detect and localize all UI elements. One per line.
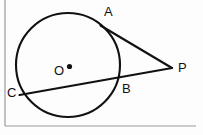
point-label-p: P xyxy=(178,60,187,75)
center-dot xyxy=(67,64,72,69)
point-label-a: A xyxy=(104,4,113,19)
center-label-o: O xyxy=(54,63,64,78)
point-label-b: B xyxy=(122,81,131,96)
geometry-canvas: A P B C O xyxy=(0,0,203,135)
geometry-figure: A P B C O xyxy=(0,0,203,135)
point-label-c: C xyxy=(7,85,16,100)
